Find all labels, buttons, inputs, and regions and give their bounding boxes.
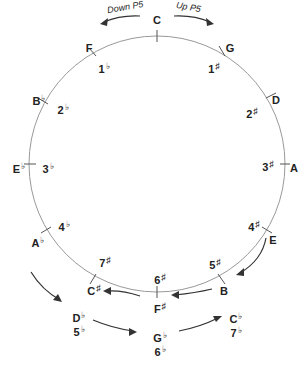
sig-d: 2♯ <box>246 106 258 120</box>
arrows <box>31 16 266 331</box>
key-f: F <box>86 43 93 54</box>
key-g: G <box>226 43 235 54</box>
sig-b-flat: 2♭ <box>57 102 68 116</box>
sig-e: 4♯ <box>248 219 260 233</box>
sig-d-flat: 5♭ <box>73 324 84 338</box>
sig-f-sharp: 6♯ <box>154 272 166 286</box>
sig-e-flat: 3♭ <box>42 161 53 175</box>
key-e-flat: E♭ <box>13 161 25 175</box>
sig-c-flat: 7♭ <box>230 325 241 339</box>
sig-f: 1♭ <box>98 61 109 75</box>
key-b: B <box>220 286 228 297</box>
sig-c-sharp: 7♯ <box>99 255 111 269</box>
sig-a: 3♯ <box>262 159 274 173</box>
circle <box>29 36 285 292</box>
key-c: C <box>153 15 161 26</box>
key-a-flat: A♭ <box>32 235 45 249</box>
key-e: E <box>269 235 276 246</box>
sig-g: 1♯ <box>208 61 220 75</box>
key-d: D <box>272 95 280 106</box>
sig-a-flat: 4♭ <box>58 219 69 233</box>
ticks <box>24 30 290 298</box>
key-a: A <box>290 163 298 174</box>
key-d-flat: D♭ <box>73 310 86 324</box>
key-f-sharp: F♯ <box>154 301 166 315</box>
key-c-sharp: C♯ <box>87 283 100 297</box>
sig-b: 5♯ <box>209 257 221 271</box>
key-c-flat: C♭ <box>230 311 243 325</box>
key-b-flat: B♭ <box>33 93 46 107</box>
key-g-flat: G♭ <box>153 330 167 344</box>
sig-g-flat: 6♭ <box>154 344 165 358</box>
